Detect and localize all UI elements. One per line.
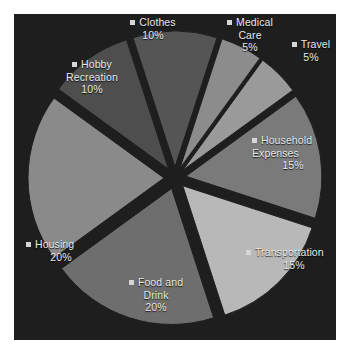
slice-label-text: Hobby [81,58,112,70]
slice-label-transportation: Transportation 15% [246,246,336,271]
legend-square-icon-clothes [130,20,135,25]
slice-label-text: Food and [138,276,183,288]
legend-square-icon-transportation [246,250,251,255]
pie-chart-panel: Clothes 10% Medical Care 5% Travel 5% Ho… [14,14,336,340]
slice-label-text-2: Expenses [252,147,336,160]
slice-label-hobby-recreation: Hobby Recreation 10% [40,58,144,96]
slice-percent: 10% [110,29,196,42]
legend-square-icon-hobby-recreation [72,62,77,67]
slice-label-household-expenses: Household Expenses 15% [252,134,336,172]
slice-label-text: Housing [35,238,74,250]
slice-label-text-2: Recreation [40,71,144,84]
slice-percent: 5% [218,41,282,54]
slice-percent: 20% [26,251,104,264]
slice-label-medical-care: Medical Care 5% [218,16,282,54]
slice-label-text-2: Drink [114,289,198,302]
slice-label-text: Travel [301,38,330,50]
slice-percent: 15% [252,159,336,172]
slice-label-text-2: Care [218,29,282,42]
legend-square-icon-medical-care [227,20,232,25]
slice-label-text: Medical [236,16,273,28]
slice-percent: 5% [276,51,336,64]
legend-square-icon-household-expenses [252,138,257,143]
legend-square-icon-housing [26,242,31,247]
slice-label-clothes: Clothes 10% [110,16,196,41]
slice-label-text: Clothes [139,16,175,28]
slice-percent: 15% [246,259,336,272]
slice-label-food-and-drink: Food and Drink 20% [114,276,198,314]
slice-label-text: Household [261,134,312,146]
legend-square-icon-travel [292,42,297,47]
slice-label-housing: Housing 20% [26,238,104,263]
slice-percent: 20% [114,301,198,314]
slice-percent: 10% [40,83,144,96]
slice-label-travel: Travel 5% [276,38,336,63]
legend-square-icon-food-and-drink [129,280,134,285]
slice-label-text: Transportation [255,246,324,258]
